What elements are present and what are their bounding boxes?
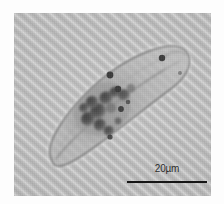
micrograph-figure: 20µm [0, 0, 224, 204]
micrograph-plate: 20µm [14, 13, 211, 196]
scale-bar-label: 20µm [127, 163, 207, 174]
scale-bar-line [127, 181, 207, 183]
scale-bar: 20µm [127, 163, 207, 189]
